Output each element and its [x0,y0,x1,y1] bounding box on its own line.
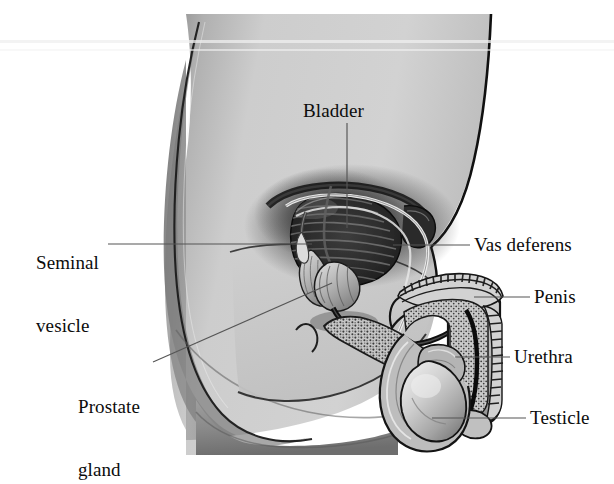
label-seminal-vesicle: Seminal vesicle [36,210,99,378]
label-bladder: Bladder [303,100,364,121]
label-seminal-vesicle-line2: vesicle [36,315,99,336]
label-testicle: Testicle [530,407,590,428]
label-prostate-gland-line2: gland [78,459,140,480]
label-seminal-vesicle-line1: Seminal [36,252,99,273]
label-prostate-gland: Prostate gland [78,354,140,484]
label-penis: Penis [534,286,576,307]
label-urethra: Urethra [514,346,573,367]
label-prostate-gland-line1: Prostate [78,396,140,417]
label-vas-deferens: Vas deferens [474,234,572,255]
